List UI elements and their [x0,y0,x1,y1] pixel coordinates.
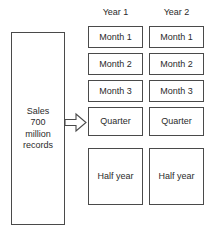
period-cell: Half year [88,148,143,205]
period-cell-label: Month 2 [160,59,193,70]
period-cell: Month 3 [88,80,143,102]
column-header: Year 2 [149,6,204,22]
partitioning-diagram: Sales 700 million records Year 1Month 1M… [0,0,218,238]
period-cell-list: Month 1Month 2Month 3QuarterHalf year [149,26,204,205]
source-data-label: Sales 700 million records [23,106,53,152]
arrow-right-outline-icon [64,112,87,133]
period-cell: Month 3 [149,80,204,102]
period-cell-label: Quarter [161,116,192,127]
period-cell: Month 2 [149,53,204,75]
period-cell: Month 1 [149,26,204,48]
period-cell: Quarter [149,107,204,136]
period-cell-label: Month 1 [160,32,193,43]
period-cell-label: Month 2 [99,59,132,70]
source-data-box: Sales 700 million records [11,32,65,225]
period-cell-label: Month 3 [160,86,193,97]
period-cell: Month 1 [88,26,143,48]
period-cell-label: Month 1 [99,32,132,43]
period-cell-label: Half year [158,171,194,182]
period-cell: Month 2 [88,53,143,75]
period-cell-label: Month 3 [99,86,132,97]
period-cell-label: Half year [97,171,133,182]
column-header: Year 1 [88,6,143,22]
period-column: Year 1Month 1Month 2Month 3QuarterHalf y… [88,6,143,205]
period-column: Year 2Month 1Month 2Month 3QuarterHalf y… [149,6,204,205]
period-cell: Half year [149,148,204,205]
period-cell-list: Month 1Month 2Month 3QuarterHalf year [88,26,143,205]
period-cell-label: Quarter [100,116,131,127]
period-cell: Quarter [88,107,143,136]
